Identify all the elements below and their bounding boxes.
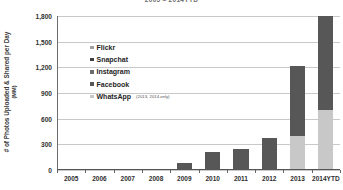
x-tick-label: 2010 [205,175,219,182]
legend-swatch-icon [90,82,94,86]
x-tick-label: 2014YTD [312,175,339,182]
x-tick-mark [142,170,143,173]
bar-segment [318,16,333,110]
x-tick-mark [170,170,171,173]
x-tick-mark [85,170,86,173]
chart-title: 2005 – 2014YTD [0,0,343,2]
y-tick-label: 1,500 [10,38,52,45]
x-tick-mark [199,170,200,173]
x-tick-mark [255,170,256,173]
legend-swatch-icon [90,95,94,99]
x-tick-label: 2007 [121,175,135,182]
legend-label: Facebook [97,81,130,88]
bar-group [233,149,248,170]
legend-swatch-icon [90,70,94,74]
x-tick-mark [114,170,115,173]
x-tick-label: 2013 [290,175,304,182]
x-tick-label: 2006 [92,175,106,182]
y-tick-label: 1,200 [10,64,52,71]
legend-label: Snapchat [97,56,129,63]
y-tick-label: 1,800 [10,13,52,20]
legend-swatch-icon [90,58,94,62]
x-tick-label: 2012 [262,175,276,182]
bar-group [262,138,277,170]
legend-item-whatsapp[interactable]: WhatsApp(2013, 2014 only) [90,92,170,101]
legend-label: Instagram [97,68,130,75]
y-tick-label: 0 [10,167,52,174]
x-axis-tick-labels: 2005200620072008200920102011201220132014… [57,170,340,190]
bar-segment [233,149,248,170]
chart-legend: FlickrSnapchatInstagramFacebookWhatsApp(… [90,43,170,101]
legend-label: Flickr [97,44,116,51]
x-tick-label: 2011 [234,175,248,182]
bar-group [205,152,220,170]
x-tick-label: 2009 [177,175,191,182]
y-axis-title-text: # of Photos Uploaded & Shared per Day [3,31,10,152]
bar-segment [205,152,220,170]
x-tick-mark [340,170,341,173]
legend-item-facebook[interactable]: Facebook [90,80,170,89]
legend-item-flickr[interactable]: Flickr [90,43,170,52]
y-axis-line [57,16,58,170]
bar-segment [318,110,333,170]
y-tick-label: 300 [10,141,52,148]
bar-segment [262,138,277,170]
bar-group [290,66,305,170]
x-tick-mark [312,170,313,173]
x-tick-mark [57,170,58,173]
bar-segment [290,136,305,170]
legend-note: (2013, 2014 only) [136,94,169,99]
legend-swatch-icon [90,46,94,50]
legend-item-snapchat[interactable]: Snapchat [90,55,170,64]
x-tick-mark [283,170,284,173]
y-tick-label: 600 [10,115,52,122]
y-tick-label: 900 [10,90,52,97]
x-tick-mark [227,170,228,173]
x-tick-label: 2005 [64,175,78,182]
legend-item-instagram[interactable]: Instagram [90,67,170,76]
bar-segment [290,66,305,135]
legend-label: WhatsApp [97,93,132,100]
x-tick-label: 2008 [149,175,163,182]
bar-group [318,16,333,170]
photo-sharing-bar-chart: 2005 – 2014YTD # of Photos Uploaded & Sh… [0,0,343,190]
